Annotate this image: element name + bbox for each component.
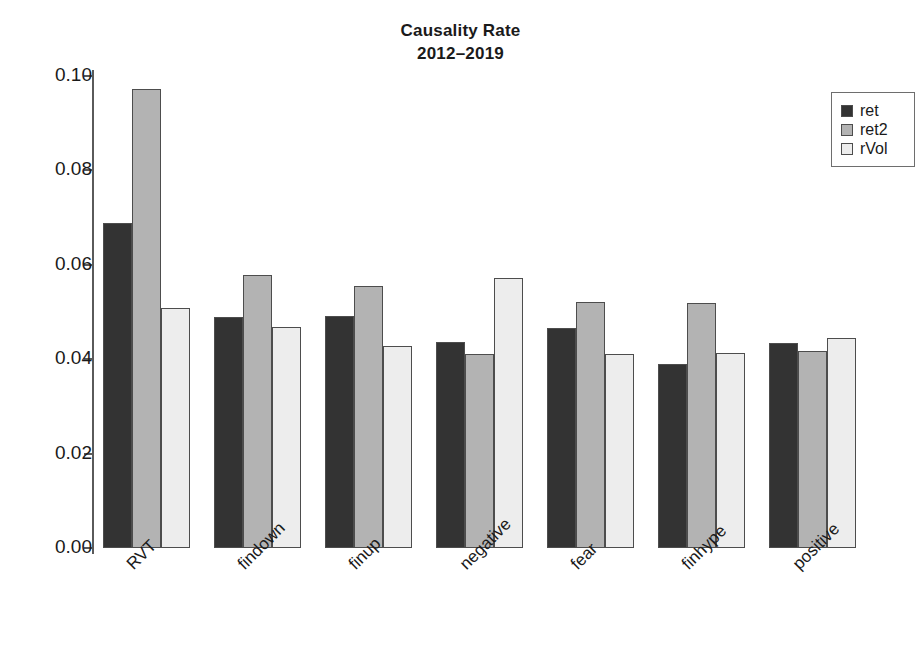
chart-title-block: Causality Rate 2012–2019 [0,20,921,66]
bar-ret-fear [547,328,576,548]
bar-rVol-negative [494,278,523,548]
y-axis-ticks: 0.100.080.060.040.020.00 [0,0,92,663]
legend-item-label: rVol [860,141,888,157]
legend-item: ret [841,101,906,120]
bar-ret-positive [769,343,798,548]
legend-item-label: ret2 [860,122,888,138]
page-title: Causality Rate [0,20,921,42]
bar-chart: Causality Rate 2012–2019 0.100.080.060.0… [0,0,921,663]
bar-group [547,76,635,548]
bar-rVol-RVT [161,308,190,548]
y-axis-tick-label: 0.02 [16,442,92,464]
bar-ret-finhype [658,364,687,548]
bar-ret-finup [325,316,354,548]
bar-ret-RVT [103,223,132,548]
chart-legend: ret ret2 rVol [831,92,915,167]
bar-ret2-negative [465,354,494,548]
bar-group [214,76,302,548]
bar-ret2-fear [576,302,605,548]
bar-rVol-finup [383,346,412,548]
bar-ret-negative [436,342,465,548]
legend-item: ret2 [841,120,906,139]
bar-ret2-positive [798,351,827,548]
legend-item: rVol [841,139,906,158]
y-axis-tick-label: 0.06 [16,253,92,275]
chart-subtitle: 2012–2019 [0,42,921,66]
y-axis-tick-label: 0.04 [16,347,92,369]
bar-rVol-positive [827,338,856,548]
y-axis-tick-label: 0.10 [16,64,92,86]
plot-area [92,76,892,548]
y-axis-tick-label: 0.00 [16,536,92,558]
legend-swatch-icon [841,124,853,136]
bar-ret-findown [214,317,243,548]
bar-rVol-finhype [716,353,745,548]
legend-swatch-icon [841,143,853,155]
bar-rVol-findown [272,327,301,548]
bar-ret2-finhype [687,303,716,548]
bar-group [658,76,746,548]
bar-group [436,76,524,548]
bar-ret2-finup [354,286,383,548]
bar-rVol-fear [605,354,634,548]
legend-item-label: ret [860,103,879,119]
legend-swatch-icon [841,105,853,117]
bar-ret2-RVT [132,89,161,548]
bar-ret2-findown [243,275,272,548]
bar-group [325,76,413,548]
y-axis-tick-label: 0.08 [16,158,92,180]
bar-group [103,76,191,548]
